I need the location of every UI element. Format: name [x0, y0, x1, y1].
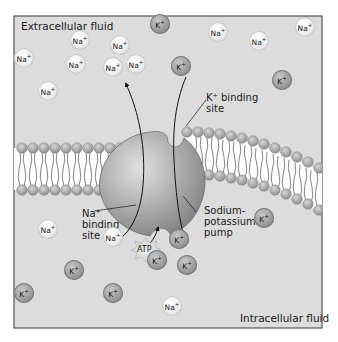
- ion-symbol: K+: [174, 234, 184, 245]
- sodium-ion: Na+: [38, 81, 58, 101]
- sodium-ion: Na+: [249, 31, 269, 51]
- ion-symbol: Na+: [41, 224, 56, 235]
- potassium-ion: K+: [14, 283, 34, 303]
- potassium-ion: K+: [103, 283, 123, 303]
- sodium-ion: Na+: [126, 54, 146, 74]
- ion-charge: +: [157, 255, 162, 261]
- ion-symbol: Na+: [41, 86, 56, 97]
- ion-symbol: Na+: [211, 27, 226, 38]
- potassium-ion: K+: [254, 208, 274, 228]
- sodium-ion: Na+: [66, 54, 86, 74]
- ion-symbol: Na+: [17, 53, 32, 64]
- ion-symbol: K+: [108, 288, 118, 299]
- intracellular-fluid-label: Intracellular fluid: [240, 312, 329, 324]
- potassium-ion: K+: [169, 229, 189, 249]
- potassium-ion: K+: [272, 70, 292, 90]
- ion-symbol: Na+: [69, 59, 84, 70]
- ion-charge: +: [83, 35, 88, 41]
- sodium-ion: Na+: [110, 35, 130, 55]
- ion-charge: +: [51, 224, 56, 230]
- potassium-ion: K+: [64, 260, 84, 280]
- ion-symbol: K+: [69, 265, 79, 276]
- ion-symbol: K+: [277, 75, 287, 86]
- ion-charge: +: [175, 301, 180, 307]
- ion-symbol: K+: [259, 213, 269, 224]
- ion-charge: +: [264, 213, 269, 219]
- ion-charge: +: [262, 36, 267, 42]
- ion-symbol: Na+: [106, 62, 121, 73]
- ion-charge: +: [187, 260, 192, 266]
- ion-charge: +: [113, 288, 118, 294]
- ion-charge: +: [221, 27, 226, 33]
- ion-charge: +: [123, 40, 128, 46]
- ion-symbol: K+: [182, 260, 192, 271]
- ion-charge: +: [27, 53, 32, 59]
- ion-symbol: K+: [19, 288, 29, 299]
- sodium-potassium-pump-label: Sodium- potassium pump: [204, 205, 256, 238]
- diagram-canvas: [0, 0, 338, 342]
- ion-charge: +: [181, 61, 186, 67]
- ion-symbol: Na+: [298, 22, 313, 33]
- sodium-ion: Na+: [14, 48, 34, 68]
- ion-symbol: Na+: [73, 35, 88, 46]
- sodium-ion: Na+: [208, 22, 228, 42]
- ion-symbol: Na+: [129, 59, 144, 70]
- sodium-ion: Na+: [103, 227, 123, 247]
- extracellular-fluid-label: Extracellular fluid: [21, 20, 113, 32]
- ion-symbol: K+: [176, 61, 186, 72]
- potassium-ion: K+: [177, 255, 197, 275]
- potassium-ion: K+: [171, 56, 191, 76]
- ion-symbol: Na+: [113, 40, 128, 51]
- sodium-ion: Na+: [295, 17, 315, 37]
- diagram-stage: Extracellular fluid Intracellular fluid …: [0, 0, 338, 342]
- ion-symbol: Na+: [165, 301, 180, 312]
- ion-charge: +: [24, 288, 29, 294]
- ion-charge: +: [308, 22, 313, 28]
- ion-charge: +: [282, 75, 287, 81]
- sodium-ion: Na+: [70, 30, 90, 50]
- ion-charge: +: [116, 232, 121, 238]
- ion-charge: +: [179, 234, 184, 240]
- potassium-ion: K+: [147, 250, 167, 270]
- ion-charge: +: [51, 86, 56, 92]
- k-binding-site-label: K⁺ binding site: [206, 92, 258, 114]
- ion-charge: +: [139, 59, 144, 65]
- ion-symbol: K+: [152, 255, 162, 266]
- ion-charge: +: [116, 62, 121, 68]
- ion-symbol: Na+: [252, 36, 267, 47]
- sodium-ion: Na+: [103, 57, 123, 77]
- ion-charge: +: [79, 59, 84, 65]
- ion-symbol: Na+: [106, 232, 121, 243]
- ion-symbol: K+: [155, 19, 165, 30]
- ion-charge: +: [160, 19, 165, 25]
- potassium-ion: K+: [150, 14, 170, 34]
- sodium-ion: Na+: [38, 219, 58, 239]
- ion-charge: +: [74, 265, 79, 271]
- sodium-ion: Na+: [162, 296, 182, 316]
